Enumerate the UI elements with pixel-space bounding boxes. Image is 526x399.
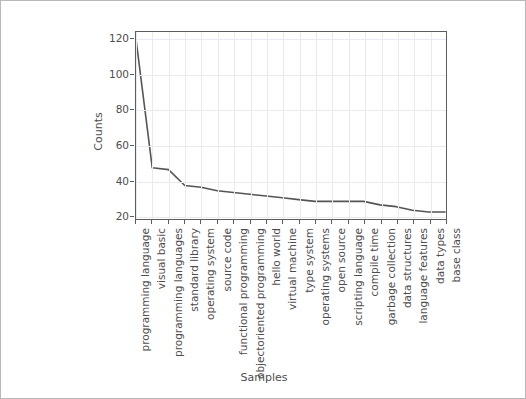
x-axis-tick-mark bbox=[233, 220, 234, 224]
y-axis-tick-label: 120 bbox=[109, 32, 129, 44]
gridline-horizontal bbox=[136, 110, 446, 111]
gridline-vertical bbox=[316, 32, 317, 219]
data-line-svg bbox=[136, 32, 446, 219]
gridline-vertical bbox=[201, 32, 202, 219]
x-axis-tick-mark bbox=[348, 220, 349, 224]
x-axis-tick-mark bbox=[446, 220, 447, 224]
x-axis-tick-label: base class bbox=[450, 228, 462, 282]
gridline-vertical bbox=[251, 32, 252, 219]
x-axis-tick-label: open source bbox=[335, 228, 347, 292]
y-axis-tick-mark bbox=[130, 181, 134, 182]
y-axis-tick-label: 40 bbox=[116, 175, 129, 187]
x-axis-tick-label: compile time bbox=[368, 228, 380, 296]
gridline-vertical bbox=[431, 32, 432, 219]
x-axis-tick-mark bbox=[282, 220, 283, 224]
gridline-horizontal bbox=[136, 146, 446, 147]
gridline-horizontal bbox=[136, 217, 446, 218]
chart-figure: Counts 20406080100120 Samples programmin… bbox=[0, 0, 526, 399]
x-axis-tick-label: data structures bbox=[401, 228, 413, 308]
y-axis-tick-label: 20 bbox=[116, 210, 129, 222]
x-axis-tick-mark bbox=[299, 220, 300, 224]
x-axis-tick-label: programming languages bbox=[172, 228, 184, 357]
x-axis-tick-mark bbox=[430, 220, 431, 224]
x-axis-tick-label: objectoriented programming bbox=[254, 228, 266, 379]
x-axis-tick-label: virtual machine bbox=[286, 228, 298, 310]
x-axis-tick-mark bbox=[397, 220, 398, 224]
plot-area bbox=[135, 31, 447, 220]
y-axis-tick-mark bbox=[130, 145, 134, 146]
y-axis-tick-mark bbox=[130, 109, 134, 110]
gridline-horizontal bbox=[136, 75, 446, 76]
x-axis-tick-label: language features bbox=[417, 228, 429, 324]
gridline-vertical bbox=[169, 32, 170, 219]
x-axis-tick-mark bbox=[184, 220, 185, 224]
x-axis-tick-mark bbox=[364, 220, 365, 224]
y-axis-tick-label: 80 bbox=[116, 103, 129, 115]
gridline-vertical bbox=[283, 32, 284, 219]
y-axis-tick-mark bbox=[130, 74, 134, 75]
x-axis-tick-mark bbox=[381, 220, 382, 224]
x-axis-tick-label: visual basic bbox=[155, 228, 167, 289]
x-axis-tick-label: hello world bbox=[270, 228, 282, 286]
x-axis-tick-mark bbox=[200, 220, 201, 224]
x-axis-tick-label: operating system bbox=[204, 228, 216, 320]
x-axis-tick-label: source code bbox=[221, 228, 233, 292]
x-axis-tick-mark bbox=[135, 220, 136, 224]
x-axis-tick-label: functional programming bbox=[237, 228, 249, 355]
gridline-horizontal bbox=[136, 182, 446, 183]
x-axis-tick-mark bbox=[250, 220, 251, 224]
x-axis-tick-mark bbox=[151, 220, 152, 224]
gridline-vertical bbox=[218, 32, 219, 219]
x-axis-tick-mark bbox=[315, 220, 316, 224]
y-axis-tick-labels: 20406080100120 bbox=[97, 1, 129, 399]
y-axis-tick-label: 60 bbox=[116, 139, 129, 151]
y-axis-tick-label: 100 bbox=[109, 68, 129, 80]
x-axis-tick-label: scripting language bbox=[352, 228, 364, 326]
gridline-vertical bbox=[185, 32, 186, 219]
x-axis-tick-label: data types bbox=[434, 228, 446, 284]
x-axis-tick-label: operating systems bbox=[319, 228, 331, 325]
x-axis-tick-label: garbage collection bbox=[385, 228, 397, 325]
x-axis-tick-label: type system bbox=[303, 228, 315, 293]
gridline-vertical bbox=[398, 32, 399, 219]
gridline-vertical bbox=[234, 32, 235, 219]
x-axis-tick-label: programming language bbox=[139, 228, 151, 352]
x-axis-tick-label: standard library bbox=[188, 228, 200, 312]
x-axis-tick-mark bbox=[413, 220, 414, 224]
gridline-vertical bbox=[414, 32, 415, 219]
x-axis-tick-mark bbox=[331, 220, 332, 224]
y-axis-tick-mark bbox=[130, 216, 134, 217]
x-axis-tick-mark bbox=[217, 220, 218, 224]
gridline-vertical bbox=[152, 32, 153, 219]
gridline-vertical bbox=[332, 32, 333, 219]
y-axis-tick-mark bbox=[130, 38, 134, 39]
gridline-vertical bbox=[382, 32, 383, 219]
x-axis-tick-mark bbox=[266, 220, 267, 224]
gridline-horizontal bbox=[136, 39, 446, 40]
gridline-vertical bbox=[267, 32, 268, 219]
x-axis-tick-mark bbox=[168, 220, 169, 224]
gridline-vertical bbox=[300, 32, 301, 219]
gridline-vertical bbox=[349, 32, 350, 219]
gridline-vertical bbox=[365, 32, 366, 219]
gridline-vertical bbox=[136, 32, 137, 219]
